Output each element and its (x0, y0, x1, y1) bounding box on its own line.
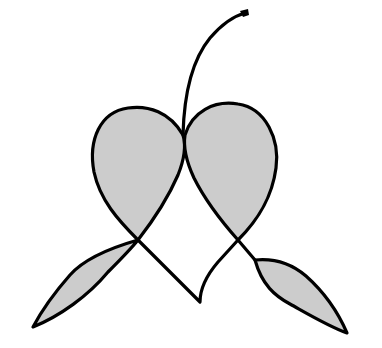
center-v (138, 240, 238, 302)
left-lobe (92, 107, 184, 240)
left-leaf (33, 240, 138, 327)
right-leaf (255, 260, 347, 333)
double-heart-figure (0, 0, 382, 348)
right-lobe (184, 103, 276, 240)
right-crossing-line (238, 240, 255, 260)
figure-canvas (0, 0, 382, 348)
